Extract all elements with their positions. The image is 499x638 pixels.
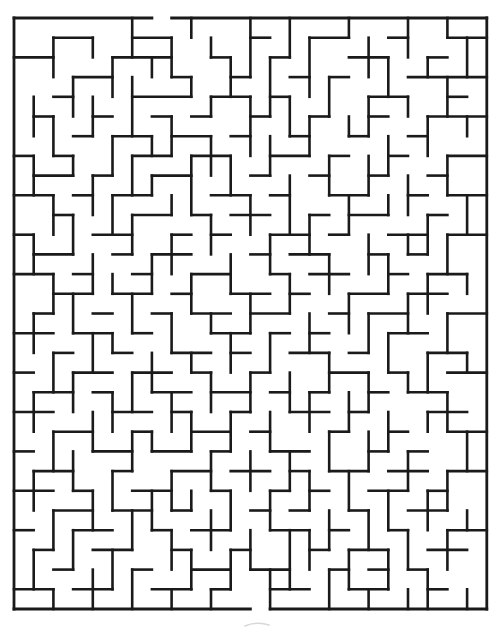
maze-canvas <box>0 0 499 638</box>
maze-page <box>0 0 499 638</box>
